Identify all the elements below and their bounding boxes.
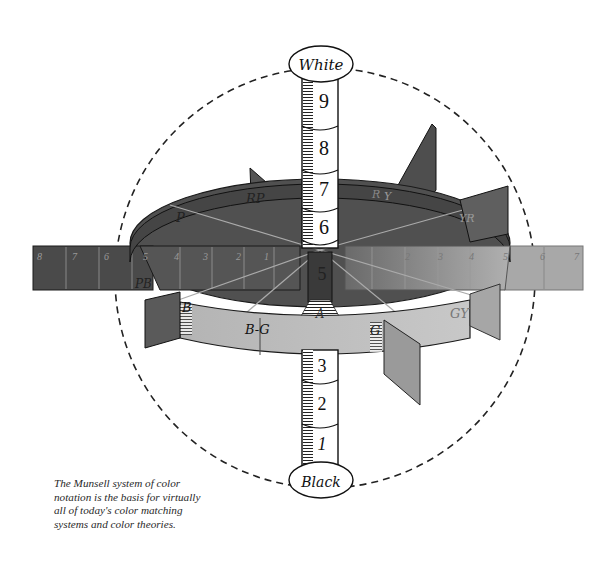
chroma-plane-right: [345, 246, 510, 290]
hue-label-gy: GY: [450, 306, 470, 321]
value-7: 7: [319, 178, 329, 200]
svg-text:3: 3: [437, 251, 443, 262]
value-1: 1: [318, 434, 327, 454]
svg-text:4: 4: [174, 251, 179, 262]
svg-text:1: 1: [372, 251, 377, 262]
svg-text:2: 2: [236, 251, 241, 262]
svg-text:5: 5: [503, 251, 508, 262]
svg-text:3: 3: [202, 251, 208, 262]
value-5: 5: [318, 264, 327, 284]
hue-label-g: G: [370, 323, 380, 338]
value-8: 8: [319, 137, 329, 159]
svg-text:6: 6: [540, 251, 545, 262]
hue-label-yr: YR: [459, 212, 475, 225]
caption-line: systems and color theories.: [54, 518, 254, 532]
caption-line: The Munsell system of color: [54, 477, 254, 491]
value-3: 3: [318, 356, 327, 376]
hue-label-b: B: [181, 300, 192, 315]
caption-line: notation is the basis for virtually: [54, 491, 254, 505]
value-9: 9: [319, 90, 329, 112]
hue-blade-b: [145, 292, 180, 348]
value-2: 2: [318, 394, 327, 414]
svg-text:8: 8: [37, 251, 42, 262]
svg-text:1: 1: [264, 251, 269, 262]
svg-text:4: 4: [469, 251, 474, 262]
hue-blade-gy: [470, 284, 500, 340]
center-label-a: A: [315, 307, 325, 321]
svg-text:5: 5: [143, 251, 148, 262]
chroma-plane-left: [140, 246, 300, 290]
svg-text:2: 2: [405, 251, 410, 262]
hue-label-r: R: [371, 188, 380, 201]
hue-label-bg: B-G: [244, 322, 270, 337]
caption-line: all of today's color matching: [54, 504, 254, 518]
hue-label-p: P: [175, 210, 185, 225]
hue-label-rp: RP: [245, 191, 265, 206]
svg-text:6: 6: [104, 251, 109, 262]
hue-label-pb: PB: [134, 277, 152, 291]
value-6: 6: [319, 216, 329, 238]
caption: The Munsell system of color notation is …: [54, 477, 254, 531]
black-label: Black: [300, 474, 340, 490]
white-label: White: [299, 56, 344, 74]
